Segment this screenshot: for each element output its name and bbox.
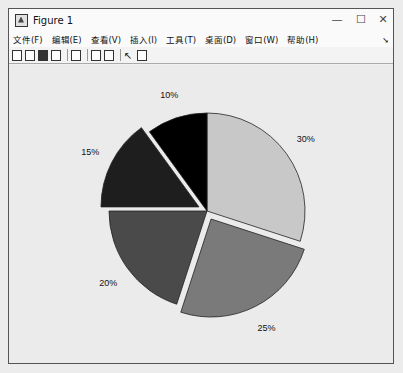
title-bar: Figure 1 — ☐ ✕ bbox=[9, 9, 393, 31]
menu-bar: 文件(F) 编辑(E) 查看(V) 插入(I) 工具(T) 桌面(D) 窗口(W… bbox=[9, 31, 393, 47]
close-button[interactable]: ✕ bbox=[375, 13, 391, 26]
colorbar-icon[interactable] bbox=[91, 50, 101, 61]
figure-window: Figure 1 — ☐ ✕ 文件(F) 编辑(E) 查看(V) 插入(I) 工… bbox=[8, 8, 394, 364]
new-figure-icon[interactable] bbox=[12, 50, 22, 61]
pointer-icon[interactable]: ↖ bbox=[124, 50, 134, 61]
pie-slice-30pct bbox=[207, 113, 305, 241]
menu-help[interactable]: 帮助(H) bbox=[287, 33, 318, 45]
save-icon[interactable] bbox=[38, 50, 48, 61]
toolbar-separator bbox=[120, 49, 121, 61]
pie-label: 15% bbox=[81, 147, 99, 157]
menu-desktop[interactable]: 桌面(D) bbox=[205, 33, 236, 45]
open-file-icon[interactable] bbox=[25, 50, 35, 61]
menu-tools[interactable]: 工具(T) bbox=[166, 33, 196, 45]
minimize-button[interactable]: — bbox=[329, 13, 345, 26]
menu-file[interactable]: 文件(F) bbox=[13, 33, 43, 45]
pie-label: 10% bbox=[160, 90, 178, 100]
legend-icon[interactable] bbox=[104, 50, 114, 61]
pie-chart: 30%25%20%15%10% bbox=[9, 65, 393, 363]
menu-view[interactable]: 查看(V) bbox=[91, 33, 121, 45]
plot-area: 30%25%20%15%10% bbox=[9, 65, 393, 363]
pie-label: 25% bbox=[257, 323, 275, 333]
maximize-button[interactable]: ☐ bbox=[353, 13, 369, 26]
pie-label: 20% bbox=[99, 278, 117, 288]
menu-window[interactable]: 窗口(W) bbox=[245, 33, 278, 45]
toolbar: ↖ bbox=[9, 47, 393, 64]
property-editor-icon[interactable] bbox=[137, 50, 147, 61]
print-icon[interactable] bbox=[51, 50, 61, 61]
toolbar-separator bbox=[87, 49, 88, 61]
menu-insert[interactable]: 插入(I) bbox=[130, 33, 157, 45]
menu-edit[interactable]: 编辑(E) bbox=[52, 33, 82, 45]
link-icon[interactable] bbox=[71, 50, 81, 61]
matlab-figure-icon bbox=[15, 14, 28, 27]
toolbar-separator bbox=[67, 49, 68, 61]
pie-label: 30% bbox=[297, 134, 315, 144]
window-title: Figure 1 bbox=[33, 15, 73, 26]
toolbar-dock-arrow-icon[interactable]: ➘ bbox=[382, 36, 389, 45]
